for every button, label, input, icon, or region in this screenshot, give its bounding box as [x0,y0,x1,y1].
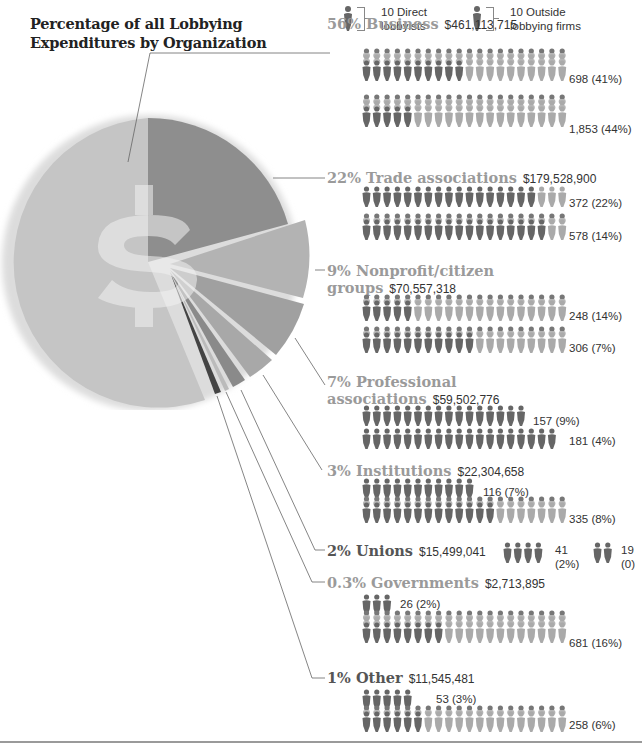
business-outside-value: 1,853 (44%) [569,122,632,136]
amount: $22,304,658 [457,465,524,479]
person-icons [362,213,568,241]
person-icon-row [503,542,544,564]
bottom-divider [0,741,642,743]
category-governments: 0.3% Governments$2,713,895 [327,574,545,593]
other-outside-value: 258 (6%) [569,718,616,732]
person-icon-row [362,496,568,518]
governments-direct-value: 26 (2%) [400,597,440,611]
person-icons [362,705,568,733]
person-icons [362,405,527,427]
institutions-outside-value: 335 (8%) [569,512,616,526]
person-icon-row [593,542,614,564]
professional-outside-value: 181 (4%) [569,434,616,448]
person-icons [362,186,568,208]
professional-direct-value: 157 (9%) [533,414,580,428]
person-icon-row [362,294,568,316]
nonprofit-outside-value: 306 (7%) [569,341,616,355]
unions-direct-value: 41(2%) [555,543,579,571]
category-unions: 2% Unions$15,499,041 [327,542,486,561]
business-direct-value: 698 (41%) [569,72,622,86]
person-icon-row [362,428,558,450]
amount: $461,113,715 [445,18,518,32]
person-icons [362,294,568,322]
amount: $11,545,481 [409,672,475,686]
category-other: 1% Other$11,545,481 [327,669,475,688]
person-icon-row [362,94,568,116]
category-nonprofit: 9% Nonprofit/citizen groups$70,557,318 [327,262,494,298]
person-icon-row [362,405,527,427]
chart-title: Percentage of all Lobbying Expenditures … [30,14,266,52]
category-professional: 7% Professional associations$59,502,776 [327,373,499,409]
person-icons [362,610,568,644]
person-icon-row [362,705,568,727]
legend-outside-label-2: lobbying firms [510,19,581,33]
trade-direct-value: 372 (22%) [569,196,622,210]
person-icon-row [362,213,568,235]
person-icon-row [362,326,568,348]
person-icons [362,326,568,354]
nonprofit-direct-value: 248 (14%) [569,309,622,323]
amount: $2,713,895 [485,577,545,591]
person-icon-row [362,610,568,632]
other-direct-value: 53 (3%) [436,692,476,706]
category-business: 56% Business$461,113,715 [327,15,517,34]
unions-outside-value: 19(0) [621,543,635,571]
legend-outside-label: 10 Outside [510,5,581,19]
amount: $179,528,900 [523,172,596,186]
person-icons [362,496,568,524]
person-icons [503,542,544,564]
person-icons [362,48,568,82]
person-icons [593,542,614,564]
title-line-1: Percentage of all Lobbying [30,14,266,33]
amount: $15,499,041 [419,545,486,559]
person-icons [362,428,558,450]
trade-outside-value: 578 (14%) [569,229,622,243]
title-line-2: Expenditures by Organization [30,33,266,52]
person-icons [362,94,568,128]
person-icon-row [362,186,568,208]
governments-outside-value: 681 (16%) [569,636,622,650]
person-icon-row [362,48,568,70]
pie-chart [0,110,330,410]
